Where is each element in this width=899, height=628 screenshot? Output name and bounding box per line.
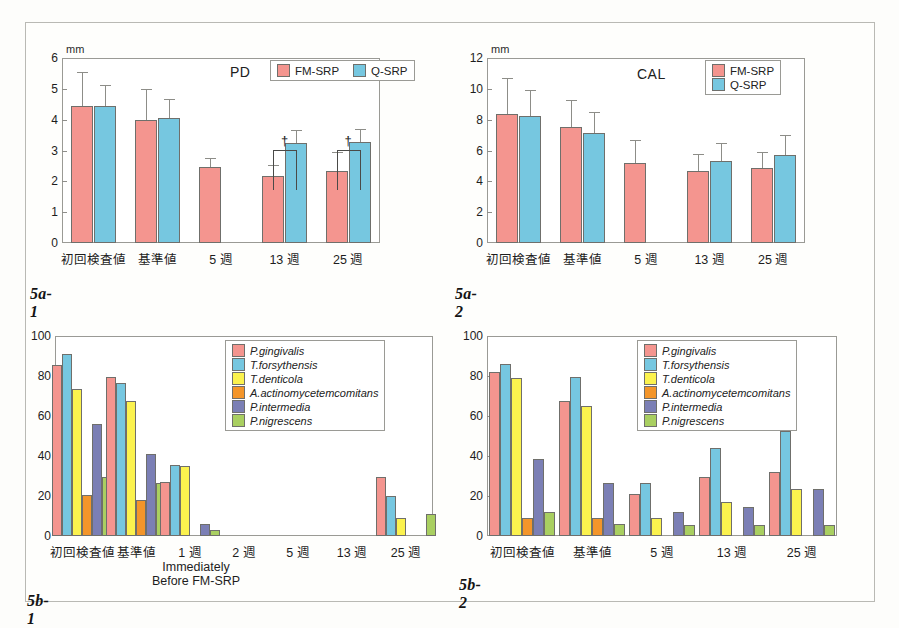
legend-label: A.actinomycetemcomitans bbox=[250, 387, 378, 399]
legend-item-qsrp[interactable]: Q-SRP bbox=[353, 64, 407, 77]
legend-item-pnigrescens[interactable]: P.nigrescens bbox=[644, 414, 790, 427]
legend-item-pnigrescens[interactable]: P.nigrescens bbox=[232, 414, 378, 427]
error-bar-cap bbox=[589, 112, 600, 113]
error-bar bbox=[146, 89, 147, 120]
y-tick-label: 40 bbox=[25, 449, 51, 463]
legend-item-qsrp[interactable]: Q-SRP bbox=[712, 78, 774, 91]
y-tick-label: 6 bbox=[457, 144, 483, 158]
bar-5b-1-0-0 bbox=[52, 365, 62, 536]
y-tick-label: 100 bbox=[25, 329, 51, 343]
chart-title: CAL bbox=[637, 66, 666, 82]
y-tick-label: 2 bbox=[457, 205, 483, 219]
y-tick-label: 0 bbox=[457, 236, 483, 250]
error-bar bbox=[594, 112, 595, 133]
error-bar bbox=[785, 135, 786, 155]
error-bar bbox=[82, 72, 83, 107]
y-tick-mark bbox=[487, 120, 492, 121]
panel-label-5b-1: 5b-1 bbox=[27, 592, 49, 628]
x-tick-label: 初回検査値 bbox=[61, 249, 126, 268]
legend-item-fmsrp[interactable]: FM-SRP bbox=[277, 64, 339, 77]
bar-5b-1-1-0 bbox=[106, 377, 116, 536]
x-tick-label: 初回検査値 bbox=[50, 542, 115, 561]
legend-item-tforsythensis[interactable]: T.forsythensis bbox=[232, 358, 378, 371]
legend-swatch-icon bbox=[712, 64, 725, 77]
x-tick-label: 基準値 bbox=[138, 249, 177, 268]
bar-5b-1-1-4 bbox=[146, 454, 156, 536]
x-tick-label: 1 週 bbox=[178, 542, 201, 561]
bar-5a-2-1-1 bbox=[583, 133, 605, 243]
y-tick-label: 100 bbox=[457, 329, 483, 343]
legend-5a-1: FM-SRPQ-SRP bbox=[270, 60, 415, 81]
legend-label: T.denticola bbox=[662, 373, 715, 385]
bar-5b-1-2-1 bbox=[170, 465, 180, 536]
legend-item-pintermedia[interactable]: P.intermedia bbox=[232, 400, 378, 413]
error-bar bbox=[530, 90, 531, 116]
bar-5b-2-0-5 bbox=[544, 512, 555, 536]
legend-item-fmsrp[interactable]: FM-SRP bbox=[712, 64, 774, 77]
legend-item-tdenticola[interactable]: T.denticola bbox=[232, 372, 378, 385]
y-tick-label: 40 bbox=[457, 449, 483, 463]
panel-label-5a-2: 5a-2 bbox=[455, 285, 477, 321]
significance-bracket-right bbox=[360, 150, 361, 190]
legend-label: FM-SRP bbox=[730, 65, 774, 77]
legend-item-pintermedia[interactable]: P.intermedia bbox=[644, 400, 790, 413]
legend-item-tforsythensis[interactable]: T.forsythensis bbox=[644, 358, 790, 371]
bar-5b-1-0-3 bbox=[82, 495, 92, 536]
bar-5b-2-0-1 bbox=[500, 364, 511, 536]
x-tick-label: 基準値 bbox=[573, 542, 612, 561]
bar-5b-1-6-5 bbox=[426, 514, 436, 536]
error-bar bbox=[210, 158, 211, 167]
bar-5b-1-2-4 bbox=[200, 524, 210, 536]
y-tick-label: 60 bbox=[25, 409, 51, 423]
legend-item-pgingivalis[interactable]: P.gingivalis bbox=[232, 344, 378, 357]
y-tick-mark bbox=[487, 151, 492, 152]
bar-5a-1-0-0 bbox=[71, 106, 93, 243]
bar-5b-2-2-4 bbox=[673, 512, 684, 536]
significance-marker: † bbox=[281, 133, 288, 148]
error-bar bbox=[360, 129, 361, 142]
bar-5b-2-4-0 bbox=[769, 472, 780, 536]
legend-item-aactinomycetemcomitans[interactable]: A.actinomycetemcomitans bbox=[232, 386, 378, 399]
error-bar-cap bbox=[355, 129, 366, 130]
x-tick-label: 5 週 bbox=[286, 542, 309, 561]
legend-item-pgingivalis[interactable]: P.gingivalis bbox=[644, 344, 790, 357]
x-tick-label: 25 週 bbox=[391, 542, 421, 561]
legend-item-aactinomycetemcomitans[interactable]: A.actinomycetemcomitans bbox=[644, 386, 790, 399]
bar-5b-1-1-2 bbox=[126, 401, 136, 536]
legend-item-tdenticola[interactable]: T.denticola bbox=[644, 372, 790, 385]
error-bar bbox=[296, 130, 297, 143]
error-bar-cap bbox=[780, 135, 791, 136]
error-bar-cap bbox=[77, 72, 88, 73]
legend-label: P.intermedia bbox=[662, 401, 722, 413]
x-tick-label: 5 週 bbox=[634, 249, 657, 268]
error-bar bbox=[698, 154, 699, 171]
bar-5b-2-4-4 bbox=[813, 489, 824, 536]
y-tick-label: 4 bbox=[457, 174, 483, 188]
bar-5a-2-4-0 bbox=[751, 168, 773, 243]
bar-5b-2-1-0 bbox=[559, 401, 570, 536]
error-bar-cap bbox=[205, 158, 216, 159]
bar-5a-2-3-0 bbox=[687, 171, 709, 243]
y-tick-label: 0 bbox=[25, 529, 51, 543]
error-bar-cap bbox=[525, 90, 536, 91]
y-tick-mark bbox=[487, 181, 492, 182]
error-bar-cap bbox=[630, 140, 641, 141]
bar-5b-2-2-0 bbox=[629, 494, 640, 536]
y-tick-label: 0 bbox=[32, 236, 58, 250]
y-tick-label: 12 bbox=[457, 51, 483, 65]
bar-5a-2-0-1 bbox=[519, 116, 541, 243]
x-axis-note-line2: Before FM-SRP bbox=[152, 574, 240, 588]
bar-5b-1-2-5 bbox=[210, 530, 220, 536]
legend-label: P.nigrescens bbox=[250, 415, 312, 427]
y-axis-title: mm bbox=[66, 43, 84, 55]
bar-5b-2-1-5 bbox=[614, 524, 625, 536]
y-tick-label: 20 bbox=[25, 489, 51, 503]
significance-bracket-top bbox=[337, 150, 360, 151]
legend-swatch-icon bbox=[232, 414, 245, 427]
legend-label: Q-SRP bbox=[371, 65, 407, 77]
y-tick-mark bbox=[62, 120, 67, 121]
bar-5b-1-0-1 bbox=[62, 354, 72, 536]
x-tick-label: 2 週 bbox=[232, 542, 255, 561]
x-tick-label: 基準値 bbox=[563, 249, 602, 268]
legend-swatch-icon bbox=[232, 372, 245, 385]
